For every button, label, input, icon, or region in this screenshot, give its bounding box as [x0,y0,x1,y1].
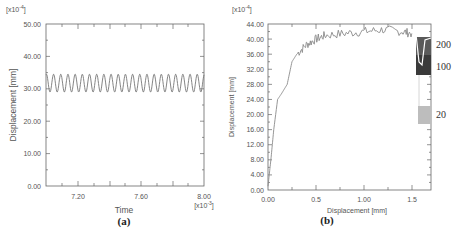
legend-label-20: 20 [436,109,446,120]
chart-a: [x10-4] 0.00 10.00 20.00 30.00 40.00 50.… [6,4,214,228]
y-tick-label: 16.00 [246,126,264,133]
chart-a-x-axis-title: Time [115,205,134,215]
chart-b-x-ticks: 0.00 0.5 1.00 1.5 [261,196,417,203]
chart-b-x-tick-marks [292,24,412,190]
y-tick-label: 0.00 [250,187,264,194]
chart-a-y-tick-marks [46,40,204,170]
legend-label-200: 200 [436,39,451,50]
y-tick-label: 32.00 [246,66,264,73]
chart-a-y-ticks: 0.00 10.00 20.00 30.00 40.00 50.00 [23,21,41,190]
chart-b-panel-label: (b) [320,214,334,227]
legend-label-100: 100 [436,61,451,72]
x-tick-label: 1.00 [357,196,371,203]
y-tick-label: 20.00 [246,111,264,118]
y-tick-label: 12.00 [246,141,264,148]
y-tick-label: 0.00 [27,183,41,190]
x-tick-label: 0.5 [311,196,321,203]
chart-a-y-multiplier: [x10-4] [6,4,26,14]
x-tick-label: 7.20 [71,193,85,200]
y-tick-label: 20.00 [23,118,41,125]
chart-a-panel-label: (a) [118,215,131,228]
x-tick-label: 1.5 [407,196,417,203]
chart-a-x-multiplier: [x10-3] [194,200,214,210]
chart-a-x-tick-marks [62,24,188,186]
x-tick-label: 8.00 [197,193,211,200]
y-tick-label: 40.00 [246,36,264,43]
x-tick-label: 0.00 [261,196,275,203]
y-tick-label: 8.00 [250,156,264,163]
y-tick-label: 10.00 [23,150,41,157]
chart-a-series-line [46,74,204,92]
chart-b-y-axis-title: Displacement [mm] [228,77,236,137]
chart-a-x-ticks: 7.20 7.60 8.00 [71,193,211,200]
figure: [x10-4] 0.00 10.00 20.00 30.00 40.00 50.… [0,0,452,232]
y-tick-label: 24.00 [246,96,264,103]
x-tick-label: 7.60 [134,193,148,200]
chart-b-series-line [268,26,412,186]
chart-b-y-tick-marks [268,32,431,183]
chart-b: [x10-4] 0.00 4.00 8.00 12.00 16.00 20.00… [228,4,451,227]
chart-b-y-multiplier: [x10-4] [232,4,252,14]
chart-b-y-ticks: 0.00 4.00 8.00 12.00 16.00 20.00 24.00 2… [246,21,264,194]
chart-a-frame [46,24,204,186]
y-tick-label: 36.00 [246,51,264,58]
chart-b-frame [268,24,431,190]
y-tick-label: 28.00 [246,81,264,88]
y-tick-label: 30.00 [23,85,41,92]
y-tick-label: 40.00 [23,53,41,60]
chart-a-y-axis-title: Displacement [mm] [8,69,18,142]
y-tick-label: 4.00 [250,171,264,178]
y-tick-label: 44.00 [246,21,264,28]
chart-b-band-20 [418,106,431,124]
chart-b-x-axis-title: Displacement [mm] [327,207,387,215]
y-tick-label: 50.00 [23,21,41,28]
